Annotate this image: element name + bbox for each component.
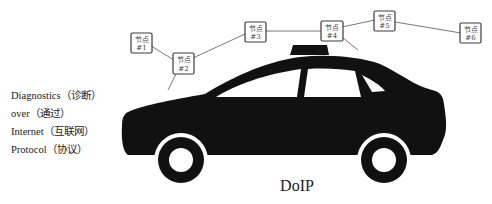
- node-id: #3: [250, 33, 260, 41]
- front-wheel-hub: [169, 148, 193, 172]
- link-4-car: [343, 38, 358, 50]
- node-label: 节点: [325, 24, 339, 32]
- link-2-car: [168, 74, 176, 90]
- acronym-line-protocol: Protocol（协议）: [11, 143, 87, 155]
- diagram-title: DoIP: [280, 177, 314, 194]
- rear-wheel-hub: [372, 148, 396, 172]
- car-silhouette: [122, 45, 446, 187]
- node-1: 节点 #1: [131, 33, 152, 53]
- node-id: #2: [178, 65, 188, 73]
- acronym-line-diagnostics: Diagnostics（诊断）: [11, 89, 101, 101]
- node-5: 节点 #5: [374, 11, 395, 31]
- link-5-6: [395, 22, 461, 33]
- link-2-3: [193, 34, 245, 58]
- node-id: #6: [465, 34, 476, 42]
- node-6: 节点 #6: [460, 23, 481, 43]
- acronym-expansion: Diagnostics（诊断） over（通过） Internet（互联网） P…: [11, 89, 101, 155]
- node-4: 节点 #4: [321, 21, 343, 41]
- roof-light-icon: [290, 45, 329, 55]
- node-label: 节点: [464, 26, 478, 34]
- acronym-line-over: over（通过）: [11, 107, 70, 119]
- node-label: 节点: [249, 25, 263, 33]
- node-label: 节点: [135, 36, 149, 44]
- node-id: #5: [379, 22, 389, 30]
- node-2: 节点 #2: [173, 53, 194, 74]
- node-3: 节点 #3: [245, 22, 266, 42]
- middle-window: [304, 69, 361, 97]
- node-label: 节点: [177, 56, 191, 64]
- link-1-2: [151, 46, 174, 60]
- node-label: 节点: [378, 14, 392, 22]
- node-id: #1: [136, 44, 146, 52]
- link-4-5: [342, 20, 375, 27]
- acronym-line-internet: Internet（互联网）: [11, 126, 94, 137]
- node-id: #4: [327, 32, 338, 40]
- doip-diagram: 节点 #1 节点 #2 节点 #3 节点 #4 节点 #5 节点 #6 Diag…: [0, 0, 492, 204]
